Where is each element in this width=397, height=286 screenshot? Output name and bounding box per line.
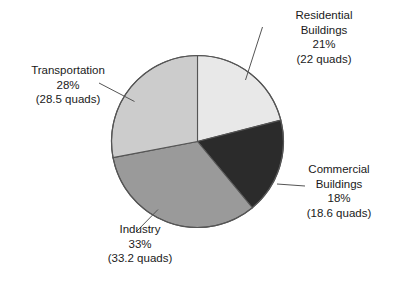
slice-label-industry-percent: 33%	[78, 237, 202, 252]
slice-label-commercial-buildings-line2: Buildings	[283, 177, 395, 192]
slice-label-industry-line1: Industry	[78, 222, 202, 237]
slice-label-commercial-buildings-quads: (18.6 quads)	[283, 206, 395, 221]
slice-label-residential-buildings-quads: (22 quads)	[256, 52, 392, 67]
slice-label-industry: Industry 33% (33.2 quads)	[78, 222, 202, 266]
slice-label-industry-quads: (33.2 quads)	[78, 251, 202, 266]
slice-label-transportation: Transportation 28% (28.5 quads)	[2, 63, 134, 107]
slice-label-transportation-percent: 28%	[2, 78, 134, 93]
pie-chart-figure: Residential Buildings 21% (22 quads) Tra…	[0, 0, 397, 286]
slice-label-commercial-buildings: Commercial Buildings 18% (18.6 quads)	[283, 162, 395, 220]
slice-label-residential-buildings-percent: 21%	[256, 37, 392, 52]
slice-label-residential-buildings: Residential Buildings 21% (22 quads)	[256, 8, 392, 66]
slice-label-commercial-buildings-percent: 18%	[283, 191, 395, 206]
slice-label-residential-buildings-line2: Buildings	[256, 23, 392, 38]
slice-label-commercial-buildings-line1: Commercial	[283, 162, 395, 177]
slice-label-transportation-quads: (28.5 quads)	[2, 92, 134, 107]
slice-label-residential-buildings-line1: Residential	[256, 8, 392, 23]
slice-label-transportation-line1: Transportation	[2, 63, 134, 78]
